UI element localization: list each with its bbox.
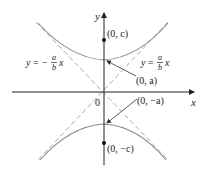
svg-text:−: − bbox=[42, 57, 48, 68]
svg-text:a: a bbox=[52, 53, 56, 62]
svg-text:x: x bbox=[58, 57, 64, 68]
asymptote-right-equation: y = a b x bbox=[140, 53, 170, 72]
svg-text:=: = bbox=[148, 57, 154, 68]
svg-text:x: x bbox=[164, 57, 170, 68]
focus-bottom-label: (0, −c) bbox=[107, 143, 134, 155]
hyperbola-diagram: y x 0 (0, c) (0, a) (0, −a) (0, −c) y = … bbox=[0, 0, 208, 171]
vertex-top-pointer bbox=[107, 61, 136, 76]
y-axis-label: y bbox=[94, 10, 100, 22]
x-axis-label: x bbox=[190, 96, 196, 108]
vertex-bottom-label: (0, −a) bbox=[137, 95, 164, 107]
vertex-top-label: (0, a) bbox=[136, 75, 157, 87]
svg-text:y: y bbox=[140, 57, 146, 68]
focus-bottom-dot bbox=[102, 141, 106, 145]
svg-text:=: = bbox=[33, 57, 39, 68]
vertex-bottom-pointer bbox=[107, 99, 137, 123]
svg-text:b: b bbox=[52, 63, 56, 72]
svg-text:y: y bbox=[25, 57, 31, 68]
origin-label: 0 bbox=[95, 97, 100, 108]
svg-text:a: a bbox=[158, 53, 162, 62]
focus-top-dot bbox=[102, 38, 106, 42]
svg-text:b: b bbox=[158, 63, 162, 72]
asymptote-left-equation: y = − a b x bbox=[25, 53, 64, 72]
focus-top-label: (0, c) bbox=[107, 28, 128, 40]
